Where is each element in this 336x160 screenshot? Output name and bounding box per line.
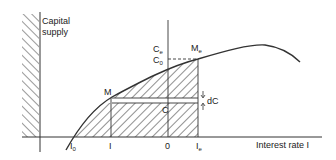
hatched-wall: [22, 14, 39, 137]
label-c0: C0: [153, 55, 163, 68]
label-m: M: [104, 87, 112, 97]
x-axis-label: Interest rate I: [256, 140, 309, 150]
tick-i0: I0: [70, 141, 76, 154]
y-axis-label-line2: supply: [42, 27, 68, 37]
label-me: Me: [191, 43, 202, 56]
tick-ie: Ie: [196, 141, 202, 154]
label-c: C: [162, 105, 169, 115]
label-dc: dC: [207, 96, 219, 106]
tick-zero: 0: [165, 141, 170, 151]
tick-i: I: [109, 141, 112, 151]
y-axis-label-line1: Capital: [42, 16, 70, 26]
capital-supply-diagram: Capital supply Interest rate I I0 I 0 Ie…: [0, 0, 336, 160]
